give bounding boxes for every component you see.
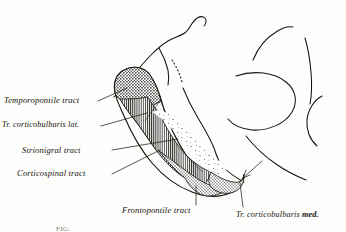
label-temporopontile-tract: Temporopontile tract [4, 96, 79, 105]
contour-lower-right-branch [246, 136, 306, 180]
contour-right-far-edge [305, 38, 312, 104]
contour-broken-medial-upper [172, 60, 182, 82]
label-corticobulbaris-med-suffix: med. [302, 210, 319, 219]
label-corticobulbaris-med-prefix: Tr. corticobulbaris [236, 210, 302, 219]
leader-corticospinal [112, 150, 160, 174]
contour-inner-notch [159, 48, 169, 85]
label-tr-corticobulbaris-med: Tr. corticobulbaris med. [236, 211, 319, 219]
leader-arrow-shaft [243, 161, 262, 178]
figure-canvas: Temporopontile tract Tr. corticobulbaris… [0, 0, 346, 232]
label-tr-corticobulbaris-lat: Tr. corticobulbaris lat. [2, 121, 79, 129]
contour-right-upper-branch [253, 27, 293, 60]
label-strionigral-tract: Strionigral tract [22, 146, 81, 155]
anatomy-drawing [0, 0, 346, 232]
label-corticospinal-tract: Corticospinal tract [17, 169, 86, 178]
contour-right-lobe [228, 73, 295, 130]
region-corticospinal [120, 97, 211, 184]
figure-caption-fragment: FIG. [56, 225, 70, 232]
contour-top-hook [196, 17, 206, 26]
label-frontopontile-tract: Frontopontile tract [122, 206, 191, 215]
contour-right-inner-arc [307, 96, 322, 146]
